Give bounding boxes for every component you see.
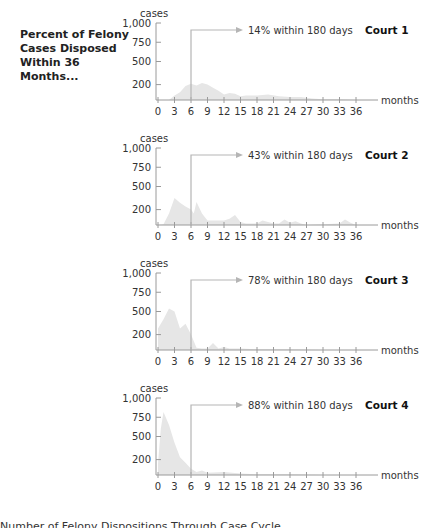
x-tick-label: 27 <box>300 356 313 367</box>
x-tick-label: 6 <box>188 106 194 117</box>
y-tick-label: 1,000 <box>122 393 151 404</box>
y-axis-label: cases <box>140 383 168 394</box>
court-3-chart: 1,000750500200cases036912151821242730333… <box>120 250 426 375</box>
x-tick-label: 27 <box>300 231 313 242</box>
x-tick-label: 33 <box>333 481 346 492</box>
arrow-right-icon <box>236 402 243 408</box>
x-tick-label: 3 <box>171 231 177 242</box>
x-tick-label: 36 <box>350 106 363 117</box>
x-tick-label: 36 <box>350 356 363 367</box>
x-tick-label: 24 <box>284 356 297 367</box>
y-axis-label: cases <box>140 8 168 19</box>
area-series <box>158 308 356 350</box>
x-tick-label: 18 <box>251 231 264 242</box>
annotation-label: 78% within 180 days <box>248 275 353 286</box>
annotation-label: 88% within 180 days <box>248 400 353 411</box>
x-tick-label: 3 <box>171 481 177 492</box>
x-tick-label: 9 <box>204 106 210 117</box>
x-tick-label: 6 <box>188 481 194 492</box>
x-tick-label: 18 <box>251 481 264 492</box>
y-tick-label: 500 <box>132 431 151 442</box>
x-tick-label: 18 <box>251 106 264 117</box>
x-tick-label: 3 <box>171 356 177 367</box>
x-tick-label: 9 <box>204 356 210 367</box>
x-tick-label: 21 <box>267 106 280 117</box>
arrow-right-icon <box>236 277 243 283</box>
y-tick-label: 750 <box>132 287 151 298</box>
y-axis-label: cases <box>140 258 168 269</box>
y-tick-label: 750 <box>132 37 151 48</box>
x-tick-label: 30 <box>317 106 330 117</box>
x-tick-label: 36 <box>350 231 363 242</box>
x-tick-label: 12 <box>218 356 231 367</box>
court-2-chart: 1,000750500200cases036912151821242730333… <box>120 125 426 250</box>
y-tick-label: 200 <box>132 329 151 340</box>
x-tick-label: 24 <box>284 231 297 242</box>
x-tick-label: 27 <box>300 106 313 117</box>
180-day-marker <box>191 405 236 475</box>
x-tick-label: 6 <box>188 231 194 242</box>
x-tick-label: 33 <box>333 231 346 242</box>
x-tick-label: 27 <box>300 481 313 492</box>
annotation-label: 14% within 180 days <box>248 25 353 36</box>
arrow-right-icon <box>236 27 243 33</box>
x-tick-label: 9 <box>204 481 210 492</box>
x-tick-label: 21 <box>267 481 280 492</box>
court-title: Court 2 <box>365 149 409 161</box>
x-tick-label: 21 <box>267 356 280 367</box>
x-tick-label: 24 <box>284 481 297 492</box>
x-tick-label: 15 <box>234 481 247 492</box>
x-tick-label: 0 <box>155 106 161 117</box>
x-tick-label: 30 <box>317 231 330 242</box>
y-tick-label: 1,000 <box>122 143 151 154</box>
x-tick-label: 9 <box>204 231 210 242</box>
y-tick-label: 500 <box>132 181 151 192</box>
x-tick-label: 33 <box>333 106 346 117</box>
area-series <box>158 198 356 225</box>
y-tick-label: 750 <box>132 162 151 173</box>
x-tick-label: 15 <box>234 356 247 367</box>
arrow-right-icon <box>236 152 243 158</box>
x-tick-label: 30 <box>317 356 330 367</box>
x-tick-label: 18 <box>251 356 264 367</box>
y-axis-label: cases <box>140 133 168 144</box>
x-axis-label: months <box>381 220 419 231</box>
x-tick-label: 3 <box>171 106 177 117</box>
y-tick-label: 1,000 <box>122 18 151 29</box>
x-tick-label: 15 <box>234 106 247 117</box>
x-tick-label: 12 <box>218 106 231 117</box>
court-1-chart: 1,000750500200cases036912151821242730333… <box>120 0 426 125</box>
y-tick-label: 500 <box>132 306 151 317</box>
x-axis-label: months <box>381 345 419 356</box>
y-tick-label: 1,000 <box>122 268 151 279</box>
annotation-label: 43% within 180 days <box>248 150 353 161</box>
chart-side-title: Percent of Felony Cases Disposed Within … <box>20 28 130 84</box>
x-tick-label: 0 <box>155 231 161 242</box>
court-title: Court 4 <box>365 399 409 411</box>
area-series <box>158 412 356 475</box>
x-tick-label: 21 <box>267 231 280 242</box>
x-tick-label: 6 <box>188 356 194 367</box>
x-tick-label: 0 <box>155 481 161 492</box>
y-tick-label: 500 <box>132 56 151 67</box>
x-axis-label: months <box>381 95 419 106</box>
x-tick-label: 12 <box>218 481 231 492</box>
x-axis-label: months <box>381 470 419 481</box>
court-title: Court 1 <box>365 24 409 36</box>
x-tick-label: 24 <box>284 106 297 117</box>
y-tick-label: 200 <box>132 204 151 215</box>
x-tick-label: 12 <box>218 231 231 242</box>
y-tick-label: 200 <box>132 454 151 465</box>
x-tick-label: 15 <box>234 231 247 242</box>
x-tick-label: 30 <box>317 481 330 492</box>
figure-caption: Number of Felony Dispositions Through Ca… <box>0 520 281 528</box>
court-4-chart: 1,000750500200cases036912151821242730333… <box>120 375 426 500</box>
court-title: Court 3 <box>365 274 409 286</box>
y-tick-label: 750 <box>132 412 151 423</box>
180-day-marker <box>191 280 236 350</box>
x-tick-label: 36 <box>350 481 363 492</box>
x-tick-label: 0 <box>155 356 161 367</box>
y-tick-label: 200 <box>132 79 151 90</box>
x-tick-label: 33 <box>333 356 346 367</box>
